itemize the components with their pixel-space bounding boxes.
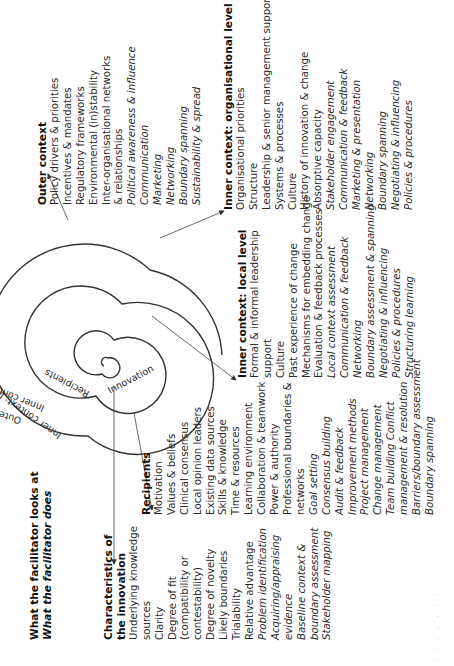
list-item: Negotiating & influencing [390, 0, 403, 210]
list-item: contestability) [192, 526, 205, 640]
list-item: Policies & procedures [391, 196, 404, 378]
list-item: Skills & knowledge [217, 359, 230, 515]
list-item: Motivation [153, 359, 166, 515]
list-item: Likely boundaries [218, 526, 231, 640]
list-item: & relationships [113, 46, 126, 205]
list-item: evidence [283, 526, 296, 640]
list-item: Goal setting [308, 359, 321, 515]
list-item: Collaboration & teamwork [256, 359, 269, 515]
list-item: management & resolution [398, 359, 411, 515]
list-item: Clinical consensus [179, 359, 192, 515]
local-level-column: Inner context: local level Formal & info… [236, 196, 417, 378]
arrow-organisational [160, 211, 224, 238]
diagram-title: What the facilitator looks at What the f… [28, 472, 54, 640]
list-item: Trialability [231, 526, 244, 640]
list-item: Project management [359, 359, 372, 515]
list-item: Marketing [152, 46, 165, 205]
list-item: Improvement methods [347, 359, 360, 515]
list-item: Regulatory frameworks [75, 46, 88, 205]
list-item: Formal & informal leadership [249, 196, 262, 378]
title-looks-at: What the facilitator looks at [28, 472, 40, 640]
innovation-column: Characteristics of the innovation Underl… [102, 526, 334, 640]
list-item: History of innovation & change [299, 0, 312, 210]
list-item: Political awareness & influence [126, 46, 139, 205]
innovation-heading-1: Characteristics of [102, 526, 115, 640]
spiral-label-recipients: Recipients [42, 367, 91, 400]
title-does: What the facilitator does [41, 472, 54, 640]
list-item: Relative advantage [244, 526, 257, 640]
list-item: Problem identification [257, 526, 270, 640]
list-item: Marketing & presentation [351, 0, 364, 210]
diagram-stage: Outer context Inner context: Inner conte… [0, 0, 454, 666]
list-item: Structuring learning [404, 196, 417, 378]
list-item: Communication & feedback [339, 196, 352, 378]
list-item: Barriers/boundary assessment [411, 359, 424, 515]
list-item: Baseline context & [296, 526, 309, 640]
list-item: Acquiring/appraising [270, 526, 283, 640]
recipients-column: Recipients MotivationValues & beliefsCli… [140, 359, 437, 515]
list-item: Evaluation & feedback processes [313, 196, 326, 378]
list-item: Values & beliefs [166, 359, 179, 515]
list-item: Environmental (in)stability [88, 46, 101, 205]
list-item: Networking [352, 196, 365, 378]
list-item: Local context assessment [326, 196, 339, 378]
outer-context-column: Outer context Policy drivers & prioritie… [36, 46, 204, 205]
list-item: Boundary assessment & spanning [365, 196, 378, 378]
organisational-level-heading: Inner context: organisational level [222, 0, 235, 210]
list-item: Professional boundaries & [282, 359, 295, 515]
list-item: Consensus building [321, 359, 334, 515]
list-item: Team building Conflict [385, 359, 398, 515]
list-item: Learning environment [243, 359, 256, 515]
list-item: Policies & procedures [403, 0, 416, 210]
list-item: Systems & processes [274, 0, 287, 210]
list-item: Absorptive capacity [312, 0, 325, 210]
recipients-heading: Recipients [140, 359, 153, 515]
list-item: Boundary spanning [377, 0, 390, 210]
list-item: Boundary spanning [178, 46, 191, 205]
list-item: sources [141, 526, 154, 640]
list-item: Degree of novelty [205, 526, 218, 640]
list-item: Culture [287, 0, 300, 210]
list-item: Leadership & senior management support [261, 0, 274, 210]
list-item: Policy drivers & priorities [49, 46, 62, 205]
local-level-heading: Inner context: local level [236, 196, 249, 378]
list-item: Audit & feedback [334, 359, 347, 515]
list-item: Communication [139, 46, 152, 205]
list-item: Networking [165, 46, 178, 205]
organisational-level-column: Inner context: organisational level Orga… [222, 0, 416, 210]
list-item: Stakeholder mapping [321, 526, 334, 640]
list-item: Mechanisms for embedding change [301, 196, 314, 378]
list-item: Time & resources [230, 359, 243, 515]
list-item: Communication & feedback [338, 0, 351, 210]
innovation-heading-2: the innovation [115, 526, 128, 640]
list-item: support [262, 196, 275, 378]
list-item: Negotiating & influencing [378, 196, 391, 378]
list-item: Clarity [154, 526, 167, 640]
list-item: Incentives & mandates [62, 46, 75, 205]
list-item: Stakeholder engagement [325, 0, 338, 210]
list-item: Culture [275, 196, 288, 378]
list-item: Structure [248, 0, 261, 210]
list-item: boundary assessment [309, 526, 322, 640]
outer-context-heading: Outer context [36, 46, 49, 205]
list-item: (compatibility or [179, 526, 192, 640]
list-item: Power & authority [269, 359, 282, 515]
list-item: Sustainability & spread [191, 46, 204, 205]
list-item: Networking [364, 0, 377, 210]
list-item: Past experience of change [288, 196, 301, 378]
list-item: Boundary spanning [424, 359, 437, 515]
figure-caption-faint: · · · · · · · [434, 590, 443, 662]
list-item: Organisational priorities [235, 0, 248, 210]
list-item: networks [295, 359, 308, 515]
list-item: Degree of fit [167, 526, 180, 640]
list-item: Underlying knowledge [128, 526, 141, 640]
list-item: Local opinion leaders [192, 359, 205, 515]
list-item: Existing data sources [205, 359, 218, 515]
list-item: Inter-organisational networks [101, 46, 114, 205]
list-item: Change management [372, 359, 385, 515]
